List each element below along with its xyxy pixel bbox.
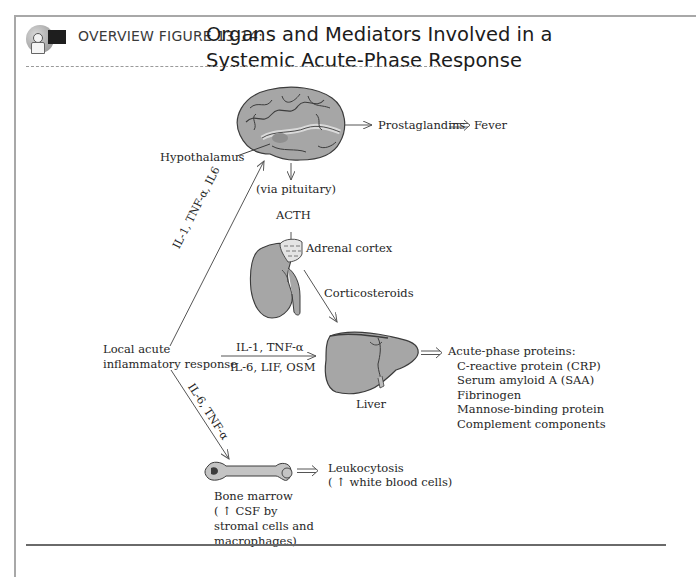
acute-phase-heading: Acute-phase proteins: <box>448 344 606 359</box>
list-item: C-reactive protein (CRP) <box>448 359 606 374</box>
brain-icon <box>237 87 344 160</box>
leukocytosis-detail: ( ↑ white blood cells) <box>328 475 452 489</box>
list-item: Fibrinogen <box>448 388 606 403</box>
prostaglandins-label: Prostaglandins <box>378 118 465 132</box>
adrenal-cortex-label: Adrenal cortex <box>306 241 392 255</box>
via-pituitary-label: (via pituitary) <box>256 182 336 196</box>
bone-marrow-label-line-2: ( ↑ CSF by <box>214 504 278 518</box>
leukocytosis-label: Leukocytosis <box>328 461 404 475</box>
source-label-line-1: Local acute <box>103 342 170 356</box>
bottom-rule <box>26 544 666 546</box>
bone-marrow-label-line-3: stromal cells and <box>214 519 314 533</box>
source-label-line-2: inflammatory response <box>103 357 237 371</box>
fever-label: Fever <box>474 118 507 132</box>
bone-icon <box>205 462 292 480</box>
acute-phase-protein-list: Acute-phase proteins: C-reactive protein… <box>448 344 606 432</box>
corticosteroids-label: Corticosteroids <box>324 286 414 300</box>
acth-label: ACTH <box>276 208 311 222</box>
bone-marrow-label-line-1: Bone marrow <box>214 489 293 503</box>
liver-label: Liver <box>356 397 386 411</box>
kidney-adrenal-icon <box>250 239 302 318</box>
hypothalamus-label: Hypothalamus <box>160 150 244 164</box>
middle-arrow-label-top: IL-1, TNF-α <box>236 340 304 354</box>
liver-icon <box>325 332 418 394</box>
list-item: Serum amyloid A (SAA) <box>448 373 606 388</box>
double-arrow-icon <box>297 466 318 477</box>
double-arrow-icon <box>421 348 442 359</box>
list-item: Mannose-binding protein <box>448 402 606 417</box>
middle-arrow-label-bottom: IL-6, LIF, OSM <box>230 360 315 374</box>
list-item: Complement components <box>448 417 606 432</box>
